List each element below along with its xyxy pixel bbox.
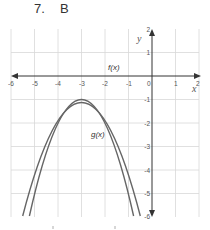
svg-text:-1: -1 [144,96,150,103]
x-axis-right-arrow [194,73,201,79]
svg-text:-1: -1 [126,80,132,87]
svg-text:-4: -4 [144,167,150,174]
svg-text:-2: -2 [102,80,108,87]
svg-text:0: 0 [147,80,151,87]
f-label: f(x) [108,63,120,72]
svg-text:2: 2 [196,80,200,87]
x-axis-left-arrow [11,73,18,79]
svg-text:-2: -2 [144,120,150,127]
svg-text:-5: -5 [144,190,150,197]
svg-text:1: 1 [146,49,150,56]
g-label: g(x) [91,130,105,139]
svg-text:-6: -6 [8,80,14,87]
svg-text:-3: -3 [144,143,150,150]
svg-text:-6: -6 [144,213,150,220]
svg-text:1: 1 [174,80,178,87]
svg-text:-3: -3 [79,80,85,87]
svg-text:-4: -4 [55,80,61,87]
y-axis-label: y [136,33,142,44]
parabola-graph: -6 -5 -4 -3 -2 -1 0 1 2 2 1 -1 -2 -3 -4 … [0,0,210,230]
y-tick-labels: 2 1 -1 -2 -3 -4 -5 -6 [144,26,150,220]
svg-text:-5: -5 [32,80,38,87]
x-axis-label: x [191,83,197,94]
svg-text:2: 2 [146,26,150,33]
x-tick-labels: -6 -5 -4 -3 -2 -1 0 1 2 [8,80,200,87]
